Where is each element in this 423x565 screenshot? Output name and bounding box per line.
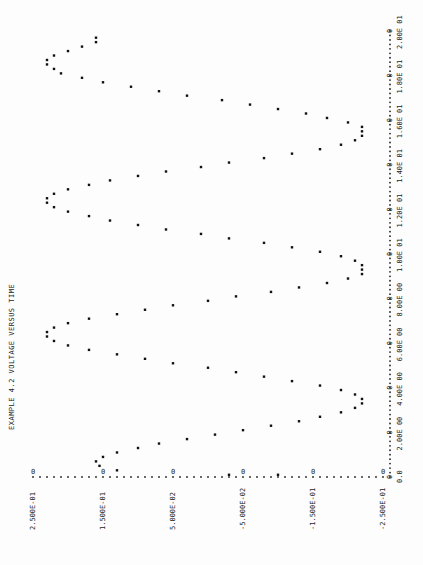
data-point [53, 68, 55, 70]
data-point [46, 59, 48, 61]
data-point [319, 251, 321, 253]
data-point [298, 420, 300, 422]
data-point [340, 255, 342, 257]
data-point [361, 273, 363, 275]
data-point [263, 375, 265, 377]
data-point [235, 371, 237, 373]
data-point [116, 313, 118, 315]
time-tick-mark: 0 [386, 163, 394, 167]
data-point [88, 349, 90, 351]
voltage-tick-label: -5.000E-02 [239, 488, 247, 530]
data-point [277, 108, 279, 110]
time-tick-label: 4.00E 00 [396, 372, 404, 406]
time-tick-mark: 0 [386, 475, 394, 479]
data-point [109, 179, 111, 181]
data-point [53, 340, 55, 342]
data-point [263, 157, 265, 159]
data-point [347, 121, 349, 123]
voltage-tick-mark: 0 [31, 468, 35, 476]
time-tick-label: 1.80E 01 [396, 60, 404, 94]
data-point [361, 264, 363, 266]
data-point [361, 268, 363, 270]
voltage-tick-label: 2.500E-01 [29, 492, 37, 530]
data-point [165, 170, 167, 172]
voltage-tick-mark: 0 [171, 468, 175, 476]
time-tick-mark: 0 [386, 207, 394, 211]
data-point [46, 202, 48, 204]
data-point [67, 210, 69, 212]
data-point [46, 63, 48, 65]
data-point [46, 197, 48, 199]
data-point [158, 90, 160, 92]
time-tick-mark: 0 [386, 296, 394, 300]
time-tick-label: 8.00E 00 [396, 283, 404, 317]
data-point [67, 188, 69, 190]
data-point [88, 317, 90, 319]
data-point [298, 286, 300, 288]
data-point [186, 94, 188, 96]
data-point [95, 460, 97, 462]
data-point [109, 219, 111, 221]
data-point [305, 112, 307, 114]
data-point [319, 416, 321, 418]
time-tick-label: 2.00E 00 [396, 417, 404, 451]
data-point [361, 126, 363, 128]
time-tick-label: 1.20E 01 [396, 194, 404, 228]
chart-title: EXAMPLE 4.2 VOLTAGE VERSUS TIME [8, 284, 16, 430]
data-point [116, 353, 118, 355]
data-point [98, 465, 100, 467]
data-point [354, 259, 356, 261]
data-point [270, 291, 272, 293]
data-point [172, 304, 174, 306]
data-point [60, 72, 62, 74]
data-point [361, 398, 363, 400]
data-point [137, 447, 139, 449]
data-point [207, 300, 209, 302]
data-point [53, 326, 55, 328]
data-point [340, 144, 342, 146]
data-point [319, 148, 321, 150]
data-point [263, 242, 265, 244]
time-tick-mark: 0 [386, 29, 394, 33]
data-point [102, 456, 104, 458]
data-point [214, 433, 216, 435]
data-point [81, 45, 83, 47]
data-point [319, 384, 321, 386]
data-point [102, 81, 104, 83]
data-point [235, 295, 237, 297]
data-point [249, 103, 251, 105]
voltage-tick-label: -1.500E-01 [309, 488, 317, 530]
data-point [270, 425, 272, 427]
data-point [172, 362, 174, 364]
data-point [291, 380, 293, 382]
time-tick-label: 0.0 [396, 470, 404, 483]
data-point [95, 41, 97, 43]
data-point [116, 451, 118, 453]
voltage-axis: 02.500E-0101.500E-0105.000E-020-5.000E-0… [29, 468, 387, 530]
data-point [116, 469, 118, 471]
time-tick-mark: 0 [386, 118, 394, 122]
voltage-vs-time-chart: EXAMPLE 4.2 VOLTAGE VERSUS TIME 02.500E-… [0, 0, 423, 565]
data-point [53, 193, 55, 195]
data-point [228, 474, 230, 476]
voltage-tick-label: -2.500E-01 [379, 488, 387, 530]
data-point [200, 233, 202, 235]
time-tick-label: 2.00E 01 [396, 15, 404, 49]
time-tick-mark: 0 [386, 73, 394, 77]
data-point [354, 393, 356, 395]
data-point [88, 215, 90, 217]
data-point [354, 139, 356, 141]
time-tick-mark: 0 [386, 252, 394, 256]
data-point [221, 99, 223, 101]
time-tick-label: 6.00E 00 [396, 327, 404, 361]
data-point [53, 206, 55, 208]
data-point [326, 282, 328, 284]
data-point [291, 152, 293, 154]
data-point [361, 130, 363, 132]
data-point [340, 389, 342, 391]
data-point [340, 411, 342, 413]
data-point [144, 358, 146, 360]
data-point [347, 277, 349, 279]
voltage-tick-mark: 0 [101, 468, 105, 476]
data-point [46, 335, 48, 337]
